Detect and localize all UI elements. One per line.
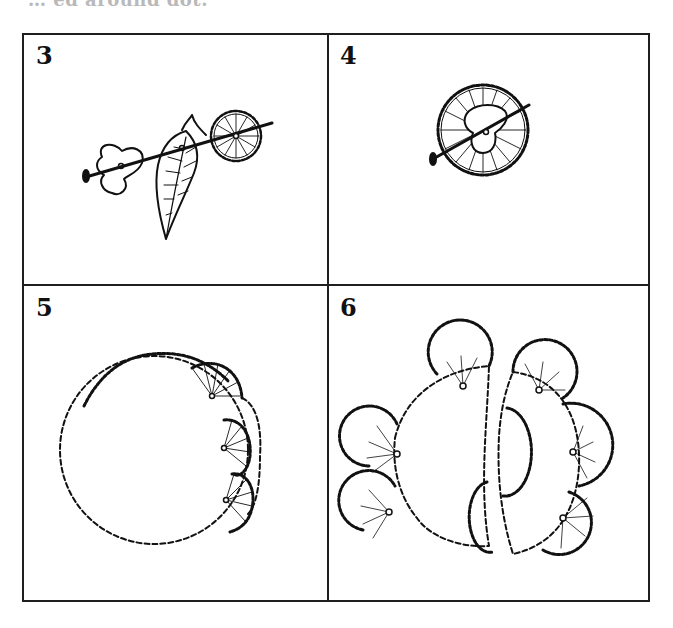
- split-pompom-arrangement-illustration: [329, 286, 650, 602]
- pin-leaf-flower-illustration: [24, 35, 327, 284]
- pompom-cluster-illustration: [24, 286, 327, 602]
- cropped-caption-text: … ed around dot.: [28, 0, 208, 10]
- instruction-grid: 3 4 5: [22, 33, 650, 602]
- pinned-pompom-illustration: [329, 35, 650, 284]
